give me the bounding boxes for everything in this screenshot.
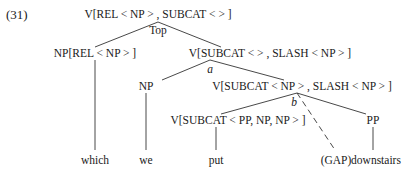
leaf-downstairs: downstairs: [351, 155, 401, 167]
edge-label-top: Top: [149, 25, 167, 37]
leaf-which: which: [81, 155, 109, 167]
node-root: V[REL < NP > , SUBCAT < > ]: [84, 9, 231, 21]
leaf-we: we: [139, 155, 152, 167]
node-pp: PP: [367, 115, 380, 127]
node-np: NP: [139, 81, 154, 93]
node-v-slash: V[SUBCAT < > , SLASH < NP > ]: [189, 48, 351, 60]
edge-vsubcatnp-vsubcat3: [221, 93, 297, 114]
node-np-rel: NP[REL < NP > ]: [54, 48, 136, 60]
leaf-put: put: [209, 155, 224, 167]
edge-v-slash-np: [162, 60, 210, 80]
edge-v-slash-v-subcat-np: [210, 60, 284, 80]
edge-label-b: b: [291, 97, 297, 109]
edge-vsubcatnp-pp: [297, 93, 366, 114]
edge-label-a: a: [207, 64, 213, 76]
leaf-gap: (GAP): [321, 155, 352, 167]
node-v-subcat-np: V[SUBCAT < NP > , SLASH < NP > ]: [212, 81, 392, 93]
edge-root-v-slash: [158, 22, 221, 47]
node-v-subcat3: V[SUBCAT < PP, NP, NP > ]: [170, 115, 305, 127]
